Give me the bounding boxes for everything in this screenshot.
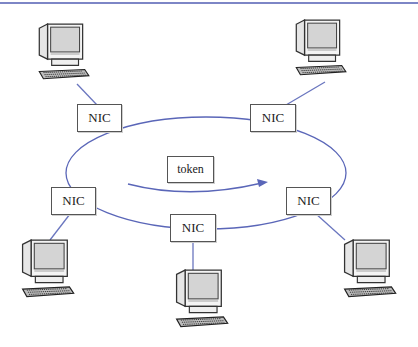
- token-ring-diagram: NIC NIC NIC NIC NIC token: [0, 0, 418, 347]
- token-arrow: [128, 183, 262, 192]
- nic-label: NIC: [88, 110, 110, 126]
- nic-right: NIC: [286, 187, 331, 215]
- nic-label: NIC: [182, 220, 204, 236]
- computer-icon: [296, 20, 346, 75]
- computer-icon: [345, 240, 396, 296]
- link-left: [50, 214, 70, 240]
- link-top-left: [77, 84, 97, 105]
- token-box: token: [167, 156, 214, 183]
- link-top-right: [286, 82, 325, 105]
- computer-icon: [177, 270, 228, 326]
- link-right: [315, 213, 345, 240]
- token-label: token: [177, 162, 204, 177]
- computer-icon: [39, 24, 89, 79]
- computer-icon: [23, 240, 74, 296]
- nic-label: NIC: [297, 193, 319, 209]
- nic-label: NIC: [62, 193, 84, 209]
- nic-label: NIC: [262, 110, 284, 126]
- nic-top-left: NIC: [77, 104, 122, 132]
- nic-bottom: NIC: [170, 214, 216, 242]
- nic-top-right: NIC: [250, 104, 296, 132]
- arrow-head-icon: [257, 179, 268, 187]
- nic-left: NIC: [51, 187, 96, 215]
